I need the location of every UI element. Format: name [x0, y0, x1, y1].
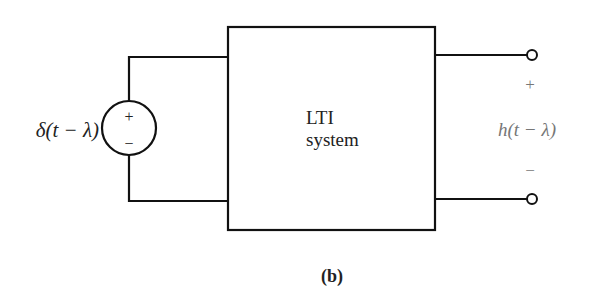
- source-minus-sign: −: [124, 135, 133, 152]
- source-label: δ(t − λ): [36, 118, 99, 142]
- impulse-voltage-source: + −: [102, 101, 156, 155]
- lti-system-block: LTI system: [228, 27, 435, 230]
- output-minus-sign: −: [525, 161, 535, 180]
- output-terminal-bottom: [527, 194, 537, 204]
- output-label: h(t − λ): [498, 119, 556, 141]
- block-label-line1: LTI: [306, 107, 334, 128]
- output-plus-sign: +: [525, 75, 535, 94]
- circuit-diagram: + − δ(t − λ) LTI system + h(t − λ) − (b): [0, 0, 614, 300]
- source-plus-sign: +: [124, 108, 133, 125]
- output-terminal-top: [527, 50, 537, 60]
- block-label-line2: system: [306, 129, 359, 150]
- figure-caption: (b): [321, 266, 343, 287]
